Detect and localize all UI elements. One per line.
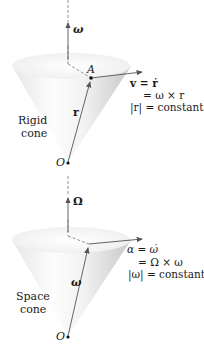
omega-axis-label: ω	[73, 24, 83, 36]
space-cone-caption-line1: Space	[16, 291, 50, 303]
equation-r-constant: |r| = constant	[130, 101, 203, 113]
apex-o-dot	[66, 161, 69, 164]
equation-big-omega-cross-omega: = Ω × ω	[138, 256, 183, 268]
apex-o-label: O	[56, 157, 65, 169]
rigid-cone-caption-line1: Rigid	[18, 115, 47, 127]
omega-vector-label: ω	[71, 277, 81, 289]
space-cone-caption-line2: cone	[20, 304, 46, 316]
rigid-cone-caption-line2: cone	[21, 128, 47, 140]
space-apex-o-label: O	[56, 331, 65, 343]
big-omega-axis-label: Ω	[73, 196, 83, 208]
equation-omega-cross-r: = ω × r	[143, 89, 184, 101]
equation-omega-constant: |ω| = constant	[128, 268, 204, 280]
equation-v: v = ṙ	[130, 77, 158, 89]
space-cone-top	[12, 227, 130, 253]
equation-alpha: α = ω̇	[127, 243, 158, 255]
space-apex-o-dot	[66, 335, 69, 338]
point-a-dot	[89, 76, 93, 80]
r-vector-label: r	[73, 107, 79, 119]
point-a-label: A	[87, 64, 95, 76]
